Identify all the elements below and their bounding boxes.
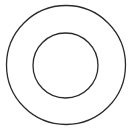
inner-circle	[33, 33, 98, 98]
outer-circle	[7, 6, 126, 125]
concentric-circles-diagram	[0, 0, 130, 132]
